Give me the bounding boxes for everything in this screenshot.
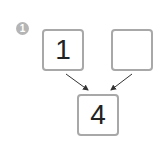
arrow-right-icon <box>111 74 132 90</box>
arrow-left-icon <box>66 74 88 90</box>
arrows <box>0 0 168 145</box>
